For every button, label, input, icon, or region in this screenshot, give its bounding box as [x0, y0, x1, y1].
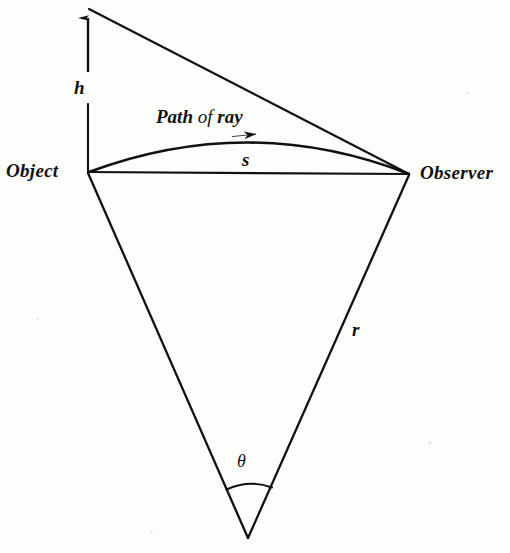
radius-line-left [88, 173, 248, 538]
label-path-word-path: Path [156, 106, 193, 127]
label-angle-theta: θ [237, 452, 246, 470]
paper-speck [428, 441, 432, 444]
label-height-h: h [74, 78, 85, 97]
label-chord-s: s [242, 150, 249, 169]
paper-speck [36, 318, 39, 320]
chord-line-s [88, 172, 409, 174]
ray-direction-arrowhead [232, 134, 256, 137]
label-object: Object [6, 161, 58, 180]
paper-speck [150, 531, 153, 533]
label-observer: Observer [420, 163, 493, 182]
label-path-word-ray: ray [217, 106, 242, 127]
theta-arc [227, 484, 273, 490]
label-radius-r: r [352, 320, 359, 339]
paper-speck [466, 92, 469, 94]
refraction-diagram: Object Observer h s r θ Path of ray [0, 0, 510, 553]
label-path-word-of: of [198, 106, 213, 127]
radius-line-right [248, 175, 409, 538]
label-path-of-ray: Path of ray [156, 107, 243, 126]
